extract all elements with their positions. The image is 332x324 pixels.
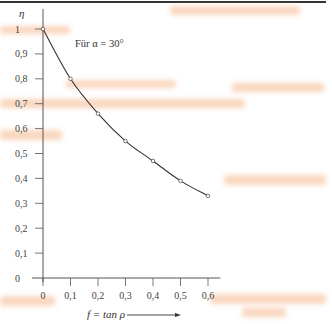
y-tick-label: 0,6 — [15, 123, 28, 134]
x-tick-label: 0,3 — [119, 290, 132, 301]
y-tick-label: 0,3 — [15, 198, 28, 209]
data-point — [41, 27, 45, 31]
y-axis-ticks: 00,10,20,30,40,50,60,70,80,91 — [15, 24, 43, 284]
y-tick-label: 0,2 — [15, 223, 28, 234]
y-tick-label: 0,9 — [15, 48, 28, 59]
y-tick-label: 1 — [15, 24, 20, 35]
data-point — [69, 77, 73, 81]
efficiency-curve — [43, 29, 208, 196]
data-point — [179, 179, 183, 183]
x-tick-label: 0,4 — [147, 290, 160, 301]
y-tick-label: 0,7 — [15, 98, 28, 109]
data-point — [151, 159, 155, 163]
x-tick-label: 0,5 — [174, 290, 187, 301]
data-point — [96, 112, 100, 116]
x-axis-label: f = tan ρ — [87, 308, 125, 320]
x-tick-label: 0,1 — [64, 290, 77, 301]
x-tick-label: 0,2 — [92, 290, 105, 301]
y-tick-label: 0,8 — [15, 73, 28, 84]
axes — [32, 9, 220, 282]
x-tick-label: 0,6 — [202, 290, 215, 301]
x-axis-ticks: 00,10,20,30,40,50,6 — [41, 278, 215, 301]
data-point — [206, 194, 210, 198]
y-axis-label: η — [19, 7, 24, 19]
y-tick-label: 0,1 — [15, 248, 28, 259]
data-point — [124, 139, 128, 143]
x-axis-arrow — [127, 313, 181, 317]
y-tick-label: 0,4 — [15, 173, 28, 184]
y-tick-label: 0,5 — [15, 148, 28, 159]
y-tick-label: 0 — [15, 273, 20, 284]
x-tick-label: 0 — [41, 290, 46, 301]
efficiency-chart: 00,10,20,30,40,50,60,70,80,91 00,10,20,3… — [0, 0, 332, 324]
chart-annotation: Für α = 30° — [75, 38, 124, 49]
data-point-markers — [41, 27, 210, 197]
